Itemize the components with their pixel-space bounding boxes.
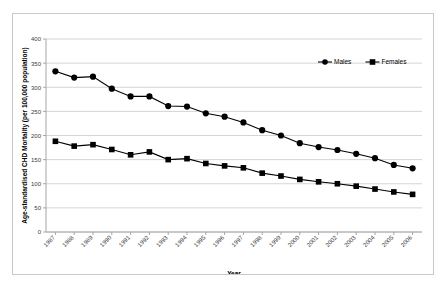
- data-point-males: [353, 151, 359, 157]
- chart-plot-area: 0501001502002503003504001987198819891990…: [13, 14, 433, 274]
- x-axis-tick-label: 1987: [42, 234, 56, 248]
- chart-frame: 0501001502002503003504001987198819891990…: [12, 13, 434, 275]
- data-point-females: [90, 142, 96, 148]
- data-point-males: [203, 110, 209, 116]
- data-point-males: [240, 119, 246, 125]
- data-point-females: [241, 165, 247, 171]
- data-point-males: [128, 93, 134, 99]
- y-axis-tick-label: 250: [31, 109, 42, 115]
- legend-label-females: Females: [382, 58, 408, 65]
- data-point-males: [52, 68, 58, 74]
- data-point-females: [316, 179, 322, 185]
- data-point-females: [184, 156, 190, 162]
- x-axis-tick-label: 1994: [174, 234, 188, 248]
- data-point-females: [222, 163, 228, 169]
- data-point-females: [71, 143, 77, 149]
- x-axis-tick-label: 1997: [230, 234, 244, 248]
- data-point-males: [90, 74, 96, 80]
- x-axis-tick-label: 1988: [61, 234, 75, 248]
- data-point-females: [278, 173, 284, 179]
- x-axis-tick-label: 1992: [136, 234, 150, 248]
- data-point-females: [53, 138, 59, 144]
- data-point-females: [165, 157, 171, 163]
- y-axis-tick-label: 100: [31, 181, 42, 187]
- data-point-males: [109, 86, 115, 92]
- x-axis-tick-label: 1991: [118, 234, 132, 248]
- data-point-males: [372, 155, 378, 161]
- x-axis-tick-label: 2005: [381, 234, 395, 248]
- data-point-males: [184, 103, 190, 109]
- data-point-males: [222, 114, 228, 120]
- x-axis-tick-label: 1995: [193, 234, 207, 248]
- x-axis-tick-label: 2003: [343, 234, 357, 248]
- data-point-males: [316, 144, 322, 150]
- legend-label-males: Males: [334, 58, 352, 65]
- data-point-females: [391, 189, 397, 195]
- x-axis-tick-label: 2006: [400, 234, 414, 248]
- legend-marker-females: [370, 59, 376, 65]
- data-point-males: [297, 140, 303, 146]
- data-point-females: [259, 170, 265, 176]
- data-point-females: [147, 149, 153, 155]
- x-axis-tick-label: 1989: [80, 234, 94, 248]
- y-axis-title: Age-standardised CHD Mortality (per 100,…: [21, 47, 29, 223]
- data-point-females: [372, 186, 378, 192]
- y-axis-tick-label: 150: [31, 157, 42, 163]
- x-axis-tick-label: 1993: [155, 234, 169, 248]
- x-axis-tick-label: 1998: [249, 234, 263, 248]
- x-axis-tick-label: 1996: [212, 234, 226, 248]
- x-axis-tick-label: 2000: [287, 234, 301, 248]
- data-point-females: [410, 192, 416, 198]
- data-point-females: [335, 181, 341, 187]
- x-axis-tick-label: 1990: [99, 234, 113, 248]
- x-axis-tick-label: 1999: [268, 234, 282, 248]
- data-point-females: [297, 177, 303, 183]
- series-line-females: [55, 141, 412, 194]
- data-point-females: [353, 183, 359, 189]
- legend-marker-males: [322, 59, 328, 65]
- data-point-males: [259, 127, 265, 133]
- x-axis-tick-label: 2002: [324, 234, 338, 248]
- x-axis-tick-label: 2001: [306, 234, 320, 248]
- data-point-males: [391, 162, 397, 168]
- data-point-females: [109, 147, 115, 153]
- data-point-males: [278, 132, 284, 138]
- data-point-females: [128, 152, 134, 158]
- data-point-males: [71, 75, 77, 81]
- x-axis-title: Year: [227, 270, 241, 274]
- data-point-females: [203, 161, 209, 167]
- y-axis-tick-label: 400: [31, 36, 42, 42]
- y-axis-tick-label: 200: [31, 133, 42, 139]
- x-axis-tick-label: 2004: [362, 234, 376, 248]
- y-axis-tick-label: 300: [31, 85, 42, 91]
- data-point-males: [410, 165, 416, 171]
- y-axis-tick-label: 350: [31, 61, 42, 67]
- y-axis-tick-label: 50: [34, 205, 41, 211]
- figure-container: 0501001502002503003504001987198819891990…: [0, 0, 447, 290]
- data-point-males: [165, 103, 171, 109]
- y-axis-tick-label: 0: [38, 229, 42, 235]
- data-point-males: [146, 93, 152, 99]
- data-point-males: [334, 147, 340, 153]
